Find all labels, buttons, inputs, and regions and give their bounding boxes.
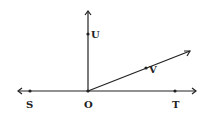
- point-t: [173, 89, 176, 92]
- point-s: [28, 89, 31, 92]
- label-v: V: [148, 64, 157, 75]
- label-t: T: [172, 99, 180, 110]
- point-o: [86, 89, 89, 92]
- label-s: S: [26, 99, 33, 110]
- label-u: U: [91, 29, 100, 40]
- ray-ov: [88, 51, 190, 91]
- label-o: O: [84, 99, 93, 110]
- point-u: [86, 32, 89, 35]
- geometry-diagram: S O T U V: [0, 0, 214, 120]
- point-v: [144, 66, 147, 69]
